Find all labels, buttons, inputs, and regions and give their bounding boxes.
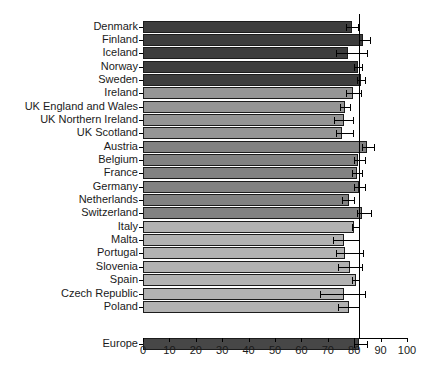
category-label-belgium: Belgium (0, 153, 138, 166)
category-label-portugal: Portugal (0, 246, 138, 259)
error-bar-cap (352, 277, 353, 284)
error-bar-cap (365, 77, 366, 84)
error-bar-france (352, 173, 363, 174)
error-bar-cap (374, 144, 375, 151)
bar-uk-northern-ireland (143, 114, 344, 126)
category-label-uk-northern-ireland: UK Northern Ireland (0, 113, 138, 126)
x-axis-tick-70 (328, 338, 329, 342)
bar-france (143, 167, 357, 179)
category-label-norway: Norway (0, 60, 138, 73)
error-bar-cap (354, 197, 355, 204)
error-bar-poland (338, 307, 359, 308)
category-label-malta: Malta (0, 233, 138, 246)
x-axis-tick-40 (249, 338, 250, 342)
error-bar-cap (336, 130, 337, 137)
bar-germany (143, 181, 359, 193)
bar-spain (143, 274, 356, 286)
error-bar-cap (353, 117, 354, 124)
error-bar-cap (353, 130, 354, 137)
error-bar-cap (365, 184, 366, 191)
error-bar-cap (352, 170, 353, 177)
x-axis-tick-80 (354, 338, 355, 342)
error-bar-cap (365, 157, 366, 164)
bar-netherlands (143, 194, 349, 206)
error-bar-czech-republic (320, 294, 365, 295)
error-bar-cap (354, 64, 355, 71)
europe-reference-line (359, 14, 360, 338)
bar-norway (143, 61, 358, 73)
bar-denmark (143, 21, 352, 33)
bar-ireland (143, 87, 353, 99)
category-label-uk-scotland: UK Scotland (0, 126, 138, 139)
category-label-sweden: Sweden (0, 73, 138, 86)
error-bar-cap (336, 250, 337, 257)
category-label-poland: Poland (0, 300, 138, 313)
error-bar-denmark (346, 27, 358, 28)
error-bar-cap (362, 144, 363, 151)
bar-italy (143, 221, 354, 233)
category-label-slovenia: Slovenia (0, 260, 138, 273)
plot-area: 0102030405060708090100 (143, 14, 407, 338)
category-label-netherlands: Netherlands (0, 193, 138, 206)
survival-bar-chart-figure: DenmarkFinlandIcelandNorwaySwedenIreland… (0, 0, 437, 367)
error-bar-cap (357, 77, 358, 84)
category-label-switzerland: Switzerland (0, 206, 138, 219)
category-label-spain: Spain (0, 273, 138, 286)
error-bar-cap (362, 170, 363, 177)
category-label-finland: Finland (0, 33, 138, 46)
error-bar-cap (370, 37, 371, 44)
error-bar-cap (354, 157, 355, 164)
category-label-italy: Italy (0, 220, 138, 233)
bar-uk-scotland (143, 127, 342, 139)
error-bar-cap (363, 250, 364, 257)
error-bar-cap (357, 210, 358, 217)
x-axis-tick-20 (196, 338, 197, 342)
x-axis-tick-label-100: 100 (392, 344, 422, 356)
x-axis-tick-0 (143, 338, 144, 342)
bar-switzerland (143, 207, 362, 219)
error-bar-malta (333, 240, 359, 241)
error-bar-cap (362, 264, 363, 271)
bar-iceland (143, 47, 348, 59)
x-axis-tick-50 (275, 338, 276, 342)
category-label-austria: Austria (0, 140, 138, 153)
error-bar-austria (362, 147, 374, 148)
error-bar-cap (338, 304, 339, 311)
category-label-germany: Germany (0, 180, 138, 193)
error-bar-cap (346, 24, 347, 31)
error-bar-cap (320, 291, 321, 298)
bar-belgium (143, 154, 358, 166)
error-bar-norway (354, 67, 362, 68)
category-label-iceland: Iceland (0, 46, 138, 59)
error-bar-cap (371, 210, 372, 217)
bar-austria (143, 141, 367, 153)
error-bar-iceland (336, 53, 368, 54)
error-bar-cap (338, 264, 339, 271)
error-bar-cap (342, 197, 343, 204)
error-bar-cap (362, 64, 363, 71)
error-bar-cap (367, 50, 368, 57)
bar-malta (143, 234, 344, 246)
error-bar-italy (352, 227, 360, 228)
error-bar-finland (359, 40, 370, 41)
error-bar-cap (334, 117, 335, 124)
x-axis-tick-100 (407, 338, 408, 342)
category-label-czech-republic: Czech Republic (0, 287, 138, 300)
error-bar-uk-northern-ireland (334, 120, 352, 121)
category-label-ireland: Ireland (0, 86, 138, 99)
x-axis-tick-90 (381, 338, 382, 342)
bar-czech-republic (143, 288, 344, 300)
bar-finland (143, 34, 363, 46)
bar-sweden (143, 74, 361, 86)
error-bar-cap (340, 104, 341, 111)
bar-poland (143, 301, 349, 313)
error-bar-cap (361, 90, 362, 97)
error-bar-spain (352, 280, 360, 281)
error-bar-cap (352, 224, 353, 231)
bar-portugal (143, 247, 345, 259)
category-label-uk-england-and-wales: UK England and Wales (0, 100, 138, 113)
error-bar-cap (350, 104, 351, 111)
error-bar-netherlands (342, 200, 354, 201)
error-bar-cap (354, 184, 355, 191)
error-bar-uk-scotland (336, 133, 353, 134)
